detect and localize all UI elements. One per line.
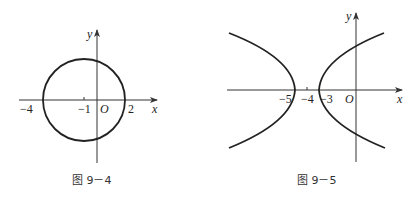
figure-9-5: y x O −5 −4 −3 图 9－5	[227, 9, 403, 187]
tick-label: −4	[301, 92, 314, 106]
origin-label: O	[345, 92, 354, 106]
tick-label: −1	[78, 102, 91, 116]
tick-label: −4	[20, 102, 33, 116]
figure-caption: 图 9－5	[297, 174, 337, 187]
origin-label: O	[100, 102, 109, 116]
x-axis-label: x	[151, 102, 158, 116]
figure-canvas: y x O −4 −1 2 图 9－4 y x O −5 −4 −3 图 9－5	[0, 0, 415, 200]
tick-label: −3	[320, 92, 333, 106]
x-axis-label: x	[396, 92, 403, 106]
figure-caption: 图 9－4	[72, 174, 112, 187]
tick-label: −5	[279, 92, 292, 106]
figure-9-4: y x O −4 −1 2 图 9－4	[19, 27, 158, 187]
tick-label: 2	[128, 102, 134, 116]
y-axis-label: y	[345, 9, 352, 23]
y-axis-label: y	[86, 27, 93, 41]
